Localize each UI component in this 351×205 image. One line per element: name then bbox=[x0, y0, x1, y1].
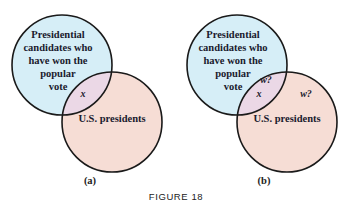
panel-label-a: (a) bbox=[84, 175, 97, 187]
set-a-label-line: popular bbox=[40, 68, 76, 79]
set-a-label-line: popular bbox=[215, 68, 251, 79]
set-a-label-line: candidates who bbox=[23, 42, 92, 53]
set-b-label: U.S. presidents bbox=[78, 113, 145, 124]
intersection-label-x: x bbox=[80, 88, 86, 99]
set-b-label: U.S. presidents bbox=[253, 113, 320, 124]
set-a-label-line: Presidential bbox=[206, 29, 260, 40]
intersection-label-w: w? bbox=[260, 74, 272, 85]
figure-caption: FIGURE 18 bbox=[149, 191, 204, 202]
venn-panel-a: Presidential candidates who have won the… bbox=[12, 15, 162, 187]
set-a-label-line: vote bbox=[49, 81, 68, 92]
set-a-label-line: have won the bbox=[29, 55, 88, 66]
venn-panel-b: Presidential candidates who have won the… bbox=[187, 15, 337, 187]
set-a-label-line: have won the bbox=[204, 55, 263, 66]
set-a-label-line: candidates who bbox=[198, 42, 267, 53]
set-b-label-w: w? bbox=[300, 88, 312, 99]
venn-figure: Presidential candidates who have won the… bbox=[0, 0, 351, 205]
intersection-label-x: x bbox=[256, 88, 262, 99]
set-a-label-line: Presidential bbox=[31, 29, 85, 40]
set-a-label-line: vote bbox=[224, 81, 243, 92]
panel-label-b: (b) bbox=[258, 175, 271, 187]
